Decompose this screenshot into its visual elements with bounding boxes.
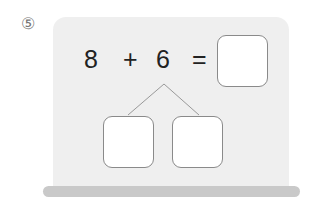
decompose-right-box[interactable] [172, 116, 223, 168]
decomposition-lines [0, 0, 314, 207]
decompose-left-box[interactable] [103, 116, 154, 168]
